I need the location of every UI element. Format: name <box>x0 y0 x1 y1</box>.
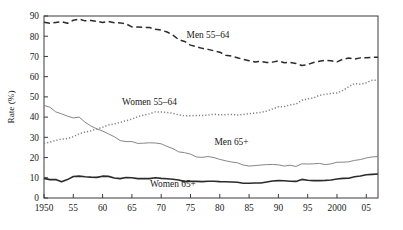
x-tick-label: 70 <box>157 203 167 213</box>
x-tick-label: 90 <box>274 203 284 213</box>
x-tick-label: 65 <box>127 203 137 213</box>
x-tick-label: 75 <box>186 203 196 213</box>
y-axis-tick-labels: 0102030405060708090 <box>30 11 40 203</box>
y-axis-title: Rate (%) <box>6 91 16 124</box>
series-line-0 <box>44 19 378 66</box>
series-label-2: Men 65+ <box>214 137 248 147</box>
y-tick-label: 60 <box>30 72 40 82</box>
series-annotations: Men 55–64Women 55–64Men 65+Women 65+ <box>122 30 248 189</box>
chart-container: 0102030405060708090 19505560657075808590… <box>0 0 403 230</box>
y-tick-label: 30 <box>30 133 40 143</box>
series-label-0: Men 55–64 <box>187 30 230 40</box>
series-line-2 <box>44 105 378 166</box>
y-tick-label: 80 <box>30 32 40 42</box>
series-line-3 <box>44 174 378 183</box>
y-tick-label: 90 <box>30 11 40 21</box>
x-axis-tick-labels: 1950556065707580859095200005 <box>35 203 372 213</box>
rate-line-chart: 0102030405060708090 19505560657075808590… <box>0 0 403 230</box>
plot-frame <box>44 16 378 198</box>
series-label-3: Women 65+ <box>150 179 196 189</box>
x-tick-label: 85 <box>244 203 254 213</box>
x-tick-label: 55 <box>69 203 79 213</box>
x-tick-label: 95 <box>303 203 313 213</box>
x-tick-label: 80 <box>215 203 225 213</box>
series-line-1 <box>44 80 378 143</box>
x-tick-label: 05 <box>362 203 372 213</box>
y-axis-ticks <box>44 16 48 198</box>
y-tick-label: 70 <box>30 52 40 62</box>
y-axis-title-text: Rate (%) <box>6 91 16 124</box>
y-tick-label: 50 <box>30 92 40 102</box>
series-label-1: Women 55–64 <box>122 97 177 107</box>
y-tick-label: 10 <box>30 173 40 183</box>
x-axis-ticks <box>44 194 366 198</box>
y-tick-label: 40 <box>30 112 40 122</box>
x-tick-label: 60 <box>98 203 108 213</box>
series-lines <box>44 19 378 183</box>
y-tick-label: 20 <box>30 153 40 163</box>
x-tick-label: 2000 <box>328 203 347 213</box>
x-tick-label: 1950 <box>35 203 54 213</box>
